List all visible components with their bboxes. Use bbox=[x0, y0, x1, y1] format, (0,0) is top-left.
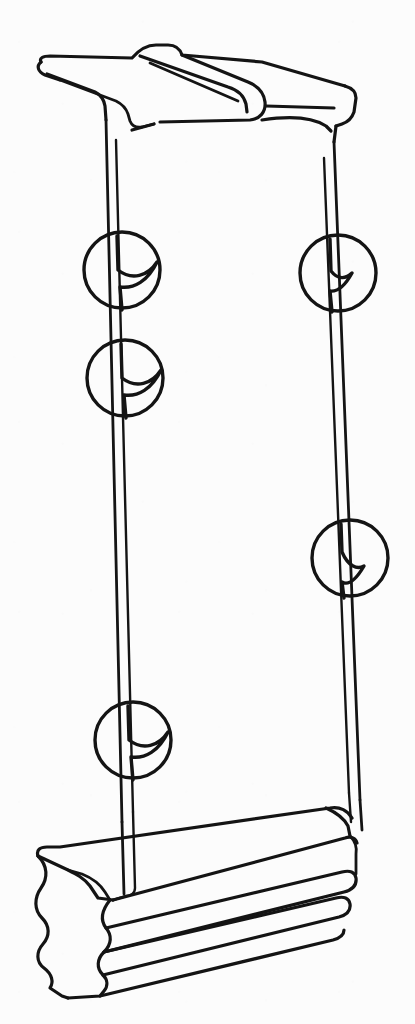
base-course2-top-edge bbox=[104, 871, 356, 952]
capital-right-neck-fillet bbox=[262, 118, 331, 131]
break-symbol-mid-left bbox=[87, 340, 163, 418]
base-course3-top-edge bbox=[103, 897, 350, 975]
shaft-right-inner-arris bbox=[324, 158, 349, 793]
base-course1-top-front-edge bbox=[113, 837, 357, 900]
shaft-group bbox=[106, 120, 360, 822]
break-symbol-lower-left bbox=[95, 702, 171, 780]
capital-group bbox=[38, 45, 356, 142]
base-right-face-edge bbox=[350, 836, 356, 874]
shaft-left-outer-arris bbox=[106, 120, 122, 822]
base-bottom-front-edge bbox=[100, 930, 344, 996]
base-right-shaft-foot bbox=[360, 800, 362, 830]
column-drawing-svg bbox=[0, 0, 415, 1024]
break-symbol-upper-left bbox=[84, 232, 160, 310]
base-left-ogee-profile bbox=[36, 856, 68, 998]
capital-right-soffit bbox=[266, 106, 334, 108]
base-left-shaft-foot bbox=[122, 822, 124, 894]
capital-scroll-crease bbox=[150, 63, 238, 101]
base-top-left-return bbox=[38, 856, 113, 900]
base-group bbox=[36, 793, 362, 998]
capital-right-neck-drop bbox=[334, 126, 336, 142]
base-right-shaft-foot-inner bbox=[349, 793, 351, 822]
base-left-inner-ogee bbox=[68, 900, 110, 998]
capital-top-back-edge bbox=[40, 45, 345, 86]
figure-canvas bbox=[0, 0, 415, 1024]
capital-left-fascia bbox=[47, 74, 106, 120]
capital-right-corner bbox=[336, 86, 356, 126]
